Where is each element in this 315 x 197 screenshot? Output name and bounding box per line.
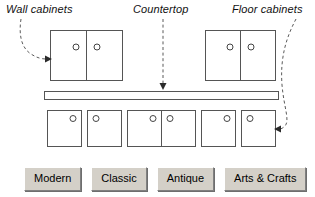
style-button-arts-crafts[interactable]: Arts & Crafts bbox=[224, 167, 306, 191]
floor-cabinet-5[interactable] bbox=[242, 111, 276, 147]
label-wall-cabinets: Wall cabinets bbox=[6, 3, 73, 15]
leader-wall-cabinets bbox=[20, 19, 52, 63]
floor-cabinet-1[interactable] bbox=[48, 111, 82, 147]
label-floor-cabinets: Floor cabinets bbox=[232, 3, 303, 15]
style-button-modern[interactable]: Modern bbox=[24, 167, 81, 191]
style-button-classic[interactable]: Classic bbox=[91, 167, 146, 191]
leader-floor-cabinets bbox=[274, 19, 296, 133]
diagram-screen: Wall cabinets Countertop Floor cabinets … bbox=[0, 0, 315, 197]
floor-cabinet-2[interactable] bbox=[88, 111, 122, 147]
label-countertop: Countertop bbox=[133, 3, 188, 15]
floor-cabinet-3[interactable] bbox=[128, 111, 196, 147]
wall-cabinet-right[interactable] bbox=[206, 31, 276, 81]
wall-cabinet-left[interactable] bbox=[51, 31, 123, 81]
leader-countertop bbox=[160, 19, 167, 90]
style-button-bar: Modern Classic Antique Arts & Crafts bbox=[0, 160, 315, 197]
floor-cabinet-4[interactable] bbox=[202, 111, 236, 147]
countertop-slab[interactable] bbox=[45, 92, 279, 100]
style-button-antique[interactable]: Antique bbox=[157, 167, 214, 191]
